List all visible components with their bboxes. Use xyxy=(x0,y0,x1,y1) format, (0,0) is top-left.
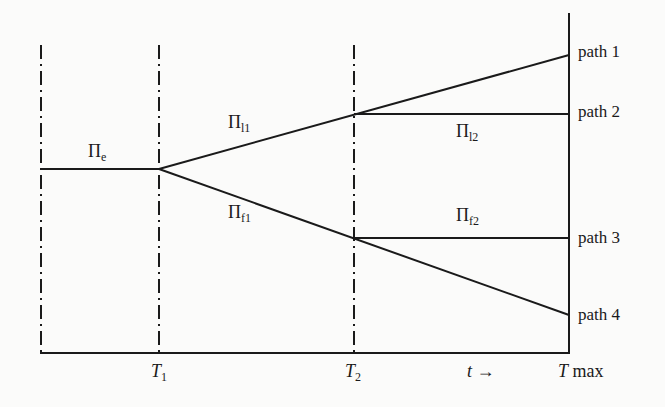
label-pi-e: Πe xyxy=(88,142,106,163)
t2-label: T2 xyxy=(345,362,361,383)
label-pi-l1: Πl1 xyxy=(228,113,250,134)
path-3-label: path 3 xyxy=(578,229,620,246)
label-pi-l2: Πl2 xyxy=(456,122,478,143)
path-4-label: path 4 xyxy=(578,306,620,323)
time-arrow-label: t → xyxy=(467,362,495,380)
tmax-label: T max xyxy=(558,362,604,380)
t1-label: T1 xyxy=(151,362,167,383)
label-pi-f1: Πf1 xyxy=(228,203,251,224)
path-1-label: path 1 xyxy=(578,43,620,60)
segment-pi-l1 xyxy=(159,55,569,169)
path-diagram xyxy=(0,0,665,407)
label-pi-f2: Πf2 xyxy=(456,206,479,227)
path-2-label: path 2 xyxy=(578,103,620,120)
segment-pi-f1 xyxy=(159,169,569,315)
